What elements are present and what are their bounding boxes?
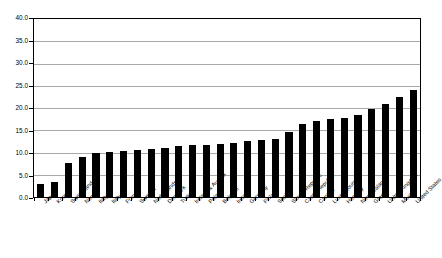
bar <box>37 19 44 197</box>
bar <box>244 19 251 197</box>
bar <box>161 19 168 197</box>
y-axis-tick-label: 40.0 <box>2 15 28 21</box>
bar <box>189 19 196 197</box>
bar-fill <box>396 97 403 197</box>
bar-fill <box>285 132 292 197</box>
bar <box>354 19 361 197</box>
y-axis-tick-label: 35.0 <box>2 37 28 43</box>
bar <box>382 19 389 197</box>
bar <box>148 19 155 197</box>
bar <box>120 19 127 197</box>
bar-fill <box>120 151 127 197</box>
bar <box>258 19 265 197</box>
y-axis-tick-label: 10.0 <box>2 150 28 156</box>
x-axis-tick-mark <box>34 198 35 201</box>
bar <box>299 19 306 197</box>
bar <box>327 19 334 197</box>
y-axis-tick-label: 0.0 <box>2 195 28 201</box>
y-axis-tick-label: 15.0 <box>2 127 28 133</box>
bar <box>92 19 99 197</box>
bar-fill <box>37 184 44 197</box>
bar <box>410 19 417 197</box>
y-axis-tick-label: 5.0 <box>2 172 28 178</box>
y-axis-tick-label: 20.0 <box>2 105 28 111</box>
bar <box>341 19 348 197</box>
bar <box>65 19 72 197</box>
bar <box>285 19 292 197</box>
y-axis-tick-label: 30.0 <box>2 60 28 66</box>
bar <box>313 19 320 197</box>
bar <box>230 19 237 197</box>
bar <box>134 19 141 197</box>
bar <box>106 19 113 197</box>
y-axis-tick-mark <box>29 198 33 199</box>
bar <box>79 19 86 197</box>
y-axis-tick-label: 25.0 <box>2 82 28 88</box>
bar-series <box>34 19 420 197</box>
bar <box>51 19 58 197</box>
bar <box>203 19 210 197</box>
bar <box>396 19 403 197</box>
bar <box>272 19 279 197</box>
bar <box>217 19 224 197</box>
bar <box>368 19 375 197</box>
bar <box>175 19 182 197</box>
bar-fill <box>106 152 113 197</box>
